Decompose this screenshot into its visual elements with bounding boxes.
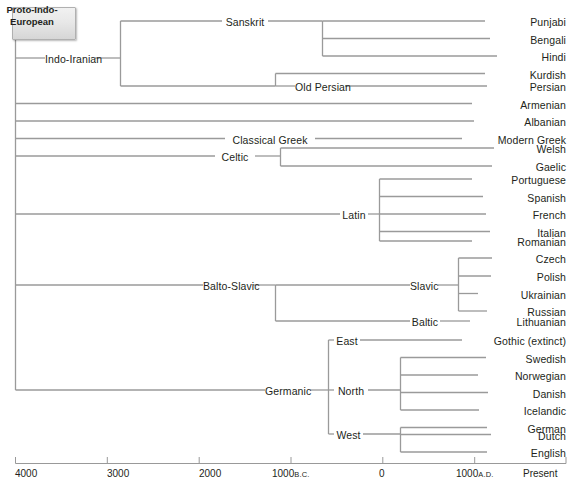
node-east: East: [334, 336, 360, 347]
root-label-line1: Proto-Indo-: [6, 4, 57, 15]
leaf-french: French: [466, 210, 566, 221]
node-old-persian: Old Persian: [295, 82, 345, 93]
leaf-albanian: Albanian: [466, 117, 566, 128]
node-indo-iranian: Indo-Iranian: [45, 54, 95, 65]
axis-tick-1: 3000: [107, 469, 129, 479]
leaf-swedish: Swedish: [466, 354, 566, 365]
node-celtic: Celtic: [215, 152, 255, 163]
axis-tick-5-value: 1000: [456, 468, 478, 479]
node-baltic: Baltic: [410, 317, 440, 328]
axis-tick-6: Present: [523, 469, 557, 479]
node-latin: Latin: [340, 210, 368, 221]
leaf-czech: Czech: [466, 254, 566, 265]
node-balto-slavic: Balto-Slavic: [203, 281, 253, 292]
leaf-polish: Polish: [466, 272, 566, 283]
leaf-danish: Danish: [466, 389, 566, 400]
leaf-armenian: Armenian: [466, 100, 566, 111]
leaf-welsh: Welsh: [466, 144, 566, 155]
language-family-tree-diagram: Proto-Indo- European Indo-Iranian Sanskr…: [0, 0, 574, 485]
leaf-icelandic: Icelandic: [466, 406, 566, 417]
leaf-bengali: Bengali: [466, 35, 566, 46]
axis-tick-0-value: 4000: [15, 468, 37, 479]
axis-tick-2-value: 2000: [199, 468, 221, 479]
node-north: North: [334, 386, 368, 397]
axis-tick-4: 0: [379, 469, 385, 479]
root-label-line2: European: [10, 16, 54, 27]
axis-tick-3-era: B.C.: [294, 470, 309, 479]
axis-tick-2: 2000: [199, 469, 221, 479]
node-sanskrit: Sanskrit: [222, 17, 268, 28]
axis-tick-5-era: A.D.: [478, 470, 493, 479]
leaf-dutch: Dutch: [466, 431, 566, 442]
leaf-spanish: Spanish: [466, 193, 566, 204]
axis-tick-4-value: 0: [379, 468, 385, 479]
node-germanic: Germanic: [265, 386, 310, 397]
root-node-label: Proto-Indo- European: [0, 4, 64, 28]
leaf-portuguese: Portuguese: [466, 175, 566, 186]
node-classical-greek: Classical Greek: [225, 135, 315, 146]
axis-tick-6-value: Present: [523, 468, 557, 479]
leaf-gothic: Gothic (extinct): [446, 336, 566, 347]
leaf-punjabi: Punjabi: [466, 17, 566, 28]
node-west: West: [334, 430, 363, 441]
leaf-english: English: [466, 448, 566, 459]
leaf-lithuanian: Lithuanian: [466, 317, 566, 328]
leaf-hindi: Hindi: [466, 52, 566, 63]
leaf-norwegian: Norwegian: [466, 371, 566, 382]
leaf-persian: Persian: [466, 82, 566, 93]
axis-tick-0: 4000: [15, 469, 37, 479]
leaf-romanian: Romanian: [466, 237, 566, 248]
leaf-ukrainian: Ukrainian: [466, 290, 566, 301]
axis-tick-5: 1000A.D.: [456, 469, 494, 479]
axis-tick-3: 1000B.C.: [272, 469, 310, 479]
axis-tick-1-value: 3000: [107, 468, 129, 479]
leaf-kurdish: Kurdish: [466, 70, 566, 81]
leaf-gaelic: Gaelic: [466, 162, 566, 173]
axis-tick-3-value: 1000: [272, 468, 294, 479]
node-slavic: Slavic: [410, 281, 438, 292]
